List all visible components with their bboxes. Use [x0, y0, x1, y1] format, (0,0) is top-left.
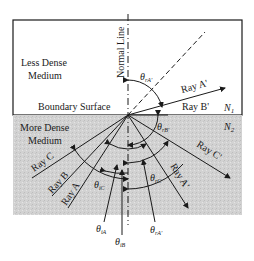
theta-r-a-refl-label: θrA'	[150, 224, 163, 236]
ray-b-prime-label: Ray B'	[182, 101, 209, 112]
upper-medium-label-2: Medium	[28, 70, 62, 81]
theta-i-a-label: θiA	[96, 223, 107, 235]
upper-medium-label-1: Less Dense	[21, 57, 67, 68]
theta-i-b-label: θiB	[115, 236, 126, 248]
normal-line-label: Normal Line	[115, 26, 126, 78]
lower-medium-label-2: Medium	[28, 135, 62, 146]
lower-medium-label-1: More Dense	[20, 122, 70, 133]
boundary-label: Boundary Surface	[38, 101, 111, 112]
refraction-diagram: Normal Line Less Dense Medium Boundary S…	[0, 0, 254, 261]
